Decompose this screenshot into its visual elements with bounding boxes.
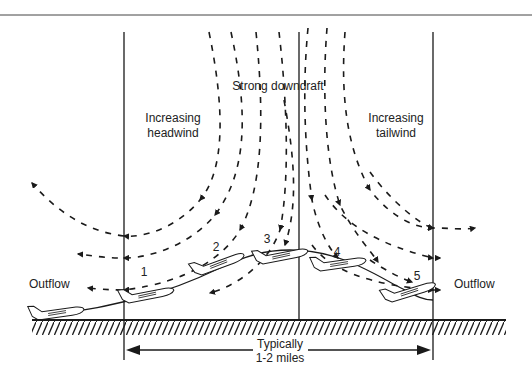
label-strong-downdraft: Strong downdraft xyxy=(232,79,324,93)
microburst-diagram: 1 2 3 4 5 Strong downdraft Increasing he… xyxy=(0,0,532,385)
aircraft-ground xyxy=(28,304,85,321)
position-number-4: 4 xyxy=(334,245,341,259)
ground-hatching xyxy=(32,321,506,335)
label-outflow-right: Outflow xyxy=(454,277,495,291)
label-increasing-tailwind-1: Increasing xyxy=(368,111,423,125)
flight-path xyxy=(60,250,433,313)
label-increasing-tailwind-2: tailwind xyxy=(376,126,416,140)
position-number-3: 3 xyxy=(264,232,271,246)
position-number-5: 5 xyxy=(414,269,421,283)
label-increasing-headwind-2: headwind xyxy=(147,126,198,140)
label-increasing-headwind-1: Increasing xyxy=(145,111,200,125)
aircraft-position-3 xyxy=(252,245,309,265)
position-number-1: 1 xyxy=(141,265,148,279)
position-number-2: 2 xyxy=(213,240,220,254)
label-outflow-left: Outflow xyxy=(29,277,70,291)
aircraft-position-1 xyxy=(118,284,175,304)
label-distance-1: Typically xyxy=(257,337,303,351)
label-distance-2: 1-2 miles xyxy=(256,351,305,365)
